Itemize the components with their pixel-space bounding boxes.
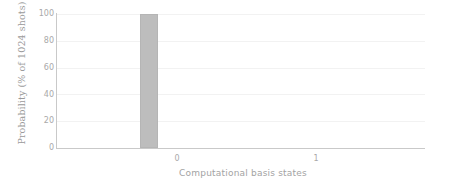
bar-chart-figure: Probability (% of 1024 shots) 100 80 60 … [0,0,452,186]
y-tick-label-100: 100 [30,10,54,18]
y-tick-label-40: 40 [30,91,54,99]
y-tick-label-80: 80 [30,37,54,45]
y-axis-tick-labels: 100 80 60 40 20 0 [28,0,54,186]
x-axis-spine [56,148,425,149]
y-axis-title: Probability (% of 1024 shots) [15,0,29,148]
y-tick-label-0: 0 [30,144,54,152]
gridline-100 [57,14,425,15]
gridline-60 [57,68,425,69]
x-tick-label-0: 0 [157,154,197,164]
gridline-80 [57,41,425,42]
gridline-20 [57,121,425,122]
bar-state-0[interactable] [140,14,158,148]
x-axis-title: Computational basis states [0,168,452,178]
x-tick-label-1: 1 [296,154,336,164]
plot-area [57,14,425,148]
y-tick-label-60: 60 [30,64,54,72]
gridline-40 [57,94,425,95]
y-tick-label-20: 20 [30,117,54,125]
